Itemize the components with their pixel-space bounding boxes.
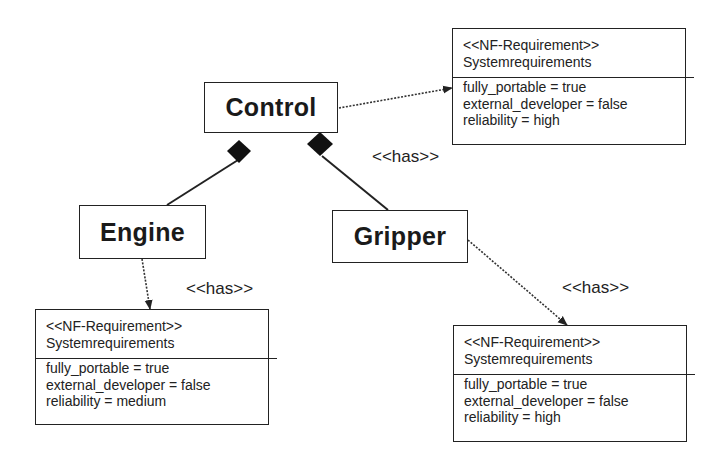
has-dependency-engine [142, 259, 150, 309]
attribute-row: fully_portable = true [463, 79, 685, 96]
requirement-header: <<NF-Requirement>> Systemrequirements [454, 326, 686, 375]
attribute-row: reliability = high [464, 409, 686, 426]
composition-diamond-icon [307, 132, 333, 156]
compartment-divider [452, 77, 694, 78]
class-engine-label: Engine [100, 218, 185, 247]
requirement-name: Systemrequirements [46, 335, 268, 352]
composition-diamond-icon [227, 140, 251, 163]
attribute-row: reliability = high [463, 112, 685, 129]
has-label-control: <<has>> [372, 147, 439, 167]
stereotype-label: <<NF-Requirement>> [463, 37, 685, 54]
class-gripper[interactable]: Gripper [332, 210, 468, 263]
attribute-row: fully_portable = true [46, 360, 268, 377]
composition-control-gripper [307, 132, 388, 210]
requirement-header: <<NF-Requirement>> Systemrequirements [453, 29, 685, 78]
compartment-divider [35, 358, 277, 359]
requirement-name: Systemrequirements [463, 54, 685, 71]
requirement-attributes: fully_portable = true external_developer… [454, 375, 686, 426]
requirement-box-gripper[interactable]: <<NF-Requirement>> Systemrequirements fu… [453, 325, 687, 442]
requirement-name: Systemrequirements [464, 351, 686, 368]
stereotype-label: <<NF-Requirement>> [46, 318, 268, 335]
attribute-row: external_developer = false [463, 96, 685, 113]
class-engine[interactable]: Engine [79, 205, 206, 259]
class-gripper-label: Gripper [354, 222, 446, 251]
has-dependency-gripper [468, 240, 567, 325]
attribute-row: reliability = medium [46, 393, 268, 410]
class-control-label: Control [226, 93, 317, 122]
requirement-attributes: fully_portable = true external_developer… [36, 359, 268, 410]
attribute-row: external_developer = false [464, 393, 686, 410]
requirement-header: <<NF-Requirement>> Systemrequirements [36, 310, 268, 359]
requirement-attributes: fully_portable = true external_developer… [453, 78, 685, 129]
has-label-engine: <<has>> [186, 279, 253, 299]
stereotype-label: <<NF-Requirement>> [464, 334, 686, 351]
attribute-row: external_developer = false [46, 377, 268, 394]
requirement-box-control[interactable]: <<NF-Requirement>> Systemrequirements fu… [452, 28, 686, 145]
has-dependency-control [339, 88, 452, 108]
requirement-box-engine[interactable]: <<NF-Requirement>> Systemrequirements fu… [35, 309, 269, 425]
composition-control-engine [167, 140, 251, 205]
class-control[interactable]: Control [204, 82, 338, 133]
has-label-gripper: <<has>> [562, 278, 629, 298]
attribute-row: fully_portable = true [464, 376, 686, 393]
compartment-divider [453, 374, 695, 375]
